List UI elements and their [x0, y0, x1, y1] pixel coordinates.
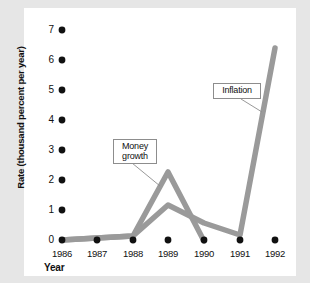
y-tick-label-6: 6 [40, 54, 54, 65]
x-tick-marker [130, 237, 137, 244]
x-tick-marker [59, 237, 66, 244]
x-tick-label-1986: 1986 [44, 248, 80, 259]
y-tick-marker [59, 117, 66, 124]
x-tick-label-1990: 1990 [186, 248, 222, 259]
x-tick-marker [237, 237, 244, 244]
callout-money-growth: Money growth [113, 139, 157, 164]
y-tick-label-7: 7 [40, 24, 54, 35]
callout-leader-money-growth [132, 163, 160, 186]
y-tick-marker [59, 177, 66, 184]
x-tick-label-1991: 1991 [222, 248, 258, 259]
y-tick-label-3: 3 [40, 144, 54, 155]
x-tick-marker [272, 237, 279, 244]
y-tick-marker [59, 207, 66, 214]
series-line-money-growth [62, 172, 204, 241]
x-tick-label-1987: 1987 [79, 248, 115, 259]
x-axis-title: Year [44, 262, 64, 273]
callout-money-growth-line2: growth [117, 152, 153, 162]
y-tick-marker [59, 57, 66, 64]
y-tick-label-4: 4 [40, 114, 54, 125]
y-axis-title: Rate (thousand percent per year) [15, 28, 26, 208]
callout-leader-inflation [241, 99, 262, 112]
chart-figure: Rate (thousand percent per year) 7 6 5 4… [0, 0, 310, 283]
y-tick-label-1: 1 [40, 204, 54, 215]
x-tick-marker [165, 237, 172, 244]
x-tick-label-1988: 1988 [115, 248, 151, 259]
callout-inflation: Inflation [213, 83, 261, 99]
x-tick-marker [201, 237, 208, 244]
x-tick-label-1992: 1992 [257, 248, 293, 259]
callout-inflation-line1: Inflation [217, 86, 257, 96]
y-tick-marker [59, 147, 66, 154]
x-tick-marker [94, 237, 101, 244]
y-tick-label-0: 0 [40, 234, 54, 245]
y-tick-label-5: 5 [40, 84, 54, 95]
series-line-inflation [62, 48, 275, 240]
y-tick-label-2: 2 [40, 174, 54, 185]
x-tick-label-1989: 1989 [150, 248, 186, 259]
y-tick-marker [59, 87, 66, 94]
y-tick-marker [59, 27, 66, 34]
